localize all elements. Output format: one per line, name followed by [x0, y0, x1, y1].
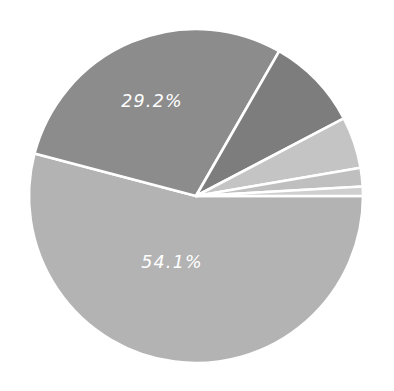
pie-slice-label-2: 29.2%: [121, 91, 183, 111]
pie-chart-container: 54.1%29.2%: [0, 0, 394, 391]
pie-chart-svg: 54.1%29.2%: [0, 0, 394, 391]
pie-slice-label-1: 54.1%: [141, 252, 203, 272]
pie-slices-group: [29, 29, 363, 363]
